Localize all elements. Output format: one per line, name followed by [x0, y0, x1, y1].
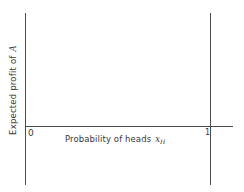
y-axis-line: [25, 13, 26, 185]
x-tick-zero: 0: [28, 129, 34, 138]
x-tick-one: 1: [205, 129, 210, 137]
y-axis-label-text: Expected profit of: [8, 55, 18, 134]
probability-one-boundary-line: [210, 13, 211, 185]
x-axis-line: [25, 126, 233, 127]
x-axis-label-text: Probability of heads: [65, 134, 151, 144]
x-axis-variable-subscript: H: [160, 138, 165, 145]
expected-profit-diagram: 0 1 Probability of headsxH Expected prof…: [0, 0, 244, 192]
y-axis-label: Expected profit ofA: [8, 45, 18, 135]
y-axis-variable: A: [8, 45, 18, 51]
x-axis-label: Probability of headsxH: [65, 134, 165, 144]
